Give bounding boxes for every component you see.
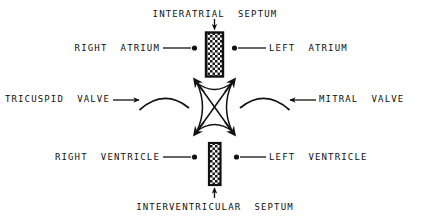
diagram-vector-layer: [0, 0, 426, 222]
tricuspid-valve-arc: [140, 98, 190, 110]
right-ventricle-label: RIGHT VENTRICLE: [55, 152, 160, 163]
interventricular-septum-label: INTERVENTRICULAR SEPTUM: [136, 202, 294, 213]
atrioventricular-valve-ring: [195, 80, 235, 135]
left-atrium-dot: [232, 45, 237, 50]
left-ventricle-label: LEFT VENTRICLE: [269, 152, 368, 163]
right-atrium-label: RIGHT ATRIUM: [75, 43, 160, 54]
heart-diagram-canvas: INTERATRIAL SEPTUM RIGHT ATRIUM LEFT ATR…: [0, 0, 426, 222]
right-atrium-dot: [192, 45, 197, 50]
interatrial-septum-block: [206, 33, 223, 77]
right-ventricle-dot: [192, 154, 197, 159]
left-atrium-label: LEFT ATRIUM: [269, 43, 348, 54]
left-ventricle-dot: [234, 154, 239, 159]
tricuspid-valve-label: TRICUSPID VALVE: [5, 94, 110, 105]
mitral-valve-label: MITRAL VALVE: [319, 94, 404, 105]
interventricular-septum-rect: [209, 143, 221, 185]
mitral-valve-arc: [240, 98, 290, 110]
interatrial-septum-rect: [206, 33, 223, 77]
interventricular-septum-block: [209, 143, 221, 185]
interatrial-septum-label: INTERATRIAL SEPTUM: [153, 9, 278, 20]
